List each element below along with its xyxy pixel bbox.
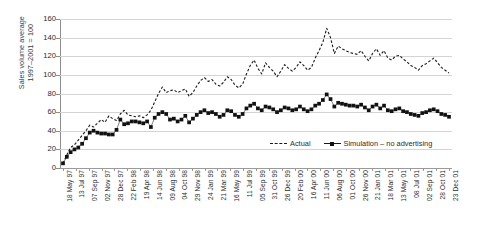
legend-entry-simulation: Simulation – no advertising [324,139,433,148]
series-marker [206,111,210,115]
x-axis-tick-label: 20 Feb 00 [297,170,304,201]
x-axis-tick-label: 06 Aug 00 [336,170,343,201]
series-marker [424,110,428,114]
series-marker [428,108,432,112]
x-axis-tick-label: 04 Oct 98 [181,170,188,200]
series-marker [245,107,249,111]
series-marker [88,131,92,135]
series-marker [84,136,88,140]
y-axis-tick-label: 140 [34,34,56,42]
series-marker [149,125,153,129]
x-axis-tick-label: 16 May 99 [233,170,240,202]
x-axis-tick-labels: 18 May 9713 Jul 9707 Sep 9702 Nov 9728 D… [60,170,452,228]
series-marker [329,97,333,101]
series-marker [237,115,241,119]
y-axis-tick-label: 60 [34,108,56,116]
sales-volume-chart: Sales volume average 1997–2001 = 100 020… [0,0,477,230]
series-marker [145,120,149,124]
x-axis-tick-label: 26 Nov 00 [362,170,369,201]
series-marker [115,128,119,132]
series-marker [443,113,447,117]
series-marker [107,133,111,137]
y-axis-tick-label: 0 [34,164,56,172]
series-marker [283,106,287,110]
series-marker [214,112,218,116]
series-marker [161,110,165,114]
series-marker [187,121,191,125]
x-axis-tick-label: 31 Oct 99 [271,170,278,200]
series-marker [436,109,440,113]
x-axis-tick-label: 08 Jul 01 [413,170,420,198]
series-marker [313,104,317,108]
series-marker [382,104,386,108]
series-marker [111,133,115,137]
x-axis-tick-label: 26 Dec 99 [284,170,291,201]
x-axis-tick-label: 13 May 01 [400,170,407,202]
y-axis-tick-label: 100 [34,71,56,79]
x-axis-tick-label: 07 Sep 97 [91,170,98,201]
series-marker [141,121,145,125]
series-marker [397,107,401,111]
y-axis-tick-label: 80 [34,90,56,98]
series-marker [375,103,379,107]
series-marker [172,117,176,121]
series-marker [73,148,77,152]
legend-entry-actual: Actual [270,139,311,148]
series-marker [164,112,168,116]
legend-label-actual: Actual [290,139,311,148]
series-marker [340,102,344,106]
series-marker [210,110,214,114]
series-marker [195,113,199,117]
x-axis-tick-label: 02 Sep 01 [426,170,433,201]
series-marker [103,132,107,136]
series-marker [401,109,405,113]
series-marker [405,110,409,114]
x-axis-tick-label: 14 Jun 98 [156,170,163,200]
series-marker [386,108,390,112]
series-marker [348,104,352,108]
series-marker [180,118,184,122]
series-marker [367,108,371,112]
series-marker [264,105,268,109]
series-marker [222,113,226,117]
series-marker [355,105,359,109]
series-marker [336,101,340,105]
legend-label-simulation: Simulation – no advertising [344,139,433,148]
series-marker [432,107,436,111]
x-axis-tick-label: 18 Mar 01 [387,170,394,201]
x-axis-tick-label: 21 Jan 01 [374,170,381,200]
series-marker [118,118,122,122]
x-axis-tick-label: 19 Apr 98 [143,170,150,199]
series-marker [130,120,134,124]
x-axis-tick-label: 29 Nov 98 [194,170,201,201]
series-marker [440,112,444,116]
series-marker [138,121,142,125]
series-marker [191,117,195,121]
series-marker [359,103,363,107]
x-axis-tick-label: 01 Oct 00 [349,170,356,200]
series-marker [394,107,398,111]
series-marker [390,109,394,113]
series-marker [344,103,348,107]
series-marker [321,98,325,102]
y-axis-tick-labels: 020406080100120140160 [34,19,56,168]
series-marker [203,108,207,112]
x-axis-tick-label: 21 Mar 99 [220,170,227,201]
series-marker [176,120,180,124]
series-marker [290,108,294,112]
series-marker [122,122,126,126]
x-axis-tick-label: 13 Jul 97 [78,170,85,198]
x-axis-tick-label: 23 Dec 01 [452,170,459,201]
series-marker [306,109,310,113]
series-marker [157,112,161,116]
series-marker [413,113,417,117]
x-axis-tick-label: 11 Jul 99 [246,170,253,197]
series-marker [310,107,314,111]
x-axis-tick-label: 05 Sep 99 [259,170,266,201]
x-axis-tick-label: 28 Oct 01 [439,170,446,200]
series-marker [229,109,233,113]
series-marker [298,105,302,109]
series-marker [183,114,187,118]
series-marker [241,112,245,116]
series-marker [99,132,103,136]
